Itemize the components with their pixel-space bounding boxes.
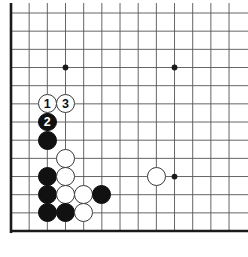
go-diagram: 132 [0, 0, 248, 257]
stone-white-move-1: 1 [38, 94, 57, 113]
stone-black [38, 131, 57, 150]
stone-white [147, 167, 166, 186]
stone-white-move-3: 3 [56, 94, 75, 113]
stone-black [38, 203, 57, 222]
stone-black [38, 167, 57, 186]
move-number-label: 2 [39, 114, 56, 131]
stone-white [56, 185, 75, 204]
stone-black-move-2: 2 [38, 113, 57, 132]
stone-black [38, 185, 57, 204]
stone-white [56, 149, 75, 168]
star-point [63, 65, 69, 71]
move-number-label: 1 [39, 95, 56, 112]
star-point [172, 65, 178, 71]
go-board-grid [0, 0, 248, 257]
move-number-label: 3 [57, 95, 74, 112]
star-point [172, 174, 178, 180]
stone-white [56, 167, 75, 186]
